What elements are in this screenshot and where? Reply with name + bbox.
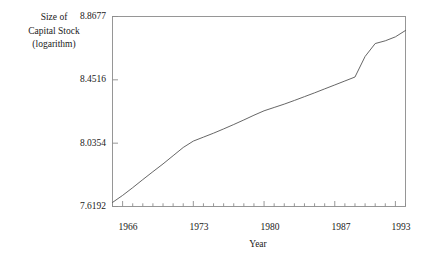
x-axis-ticks <box>113 201 406 207</box>
plot-area <box>0 0 428 262</box>
capital-stock-line-chart: Size of Capital Stock (logarithm) 8.8677… <box>0 0 428 262</box>
plot-frame <box>113 17 406 207</box>
capital-stock-series-line <box>113 30 406 202</box>
y-axis-ticks <box>113 17 119 207</box>
